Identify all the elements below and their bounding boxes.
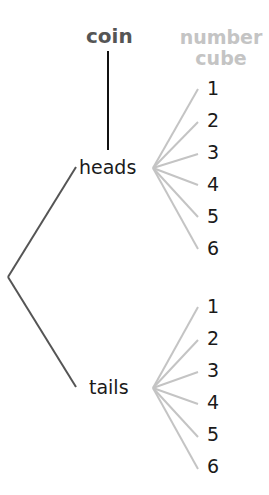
header-number-cube-line2: cube xyxy=(176,48,266,69)
heads-outcome-2: 2 xyxy=(207,111,219,130)
tails-outcome-3: 3 xyxy=(207,361,219,380)
header-number-cube-line1: number xyxy=(176,27,266,48)
header-coin: coin xyxy=(86,26,133,46)
header-number-cube: number cube xyxy=(176,27,266,69)
outcome-tails: tails xyxy=(89,378,129,397)
heads-outcome-5: 5 xyxy=(207,207,219,226)
tails-outcome-4: 4 xyxy=(207,393,219,412)
tails-fan xyxy=(153,307,198,469)
tree-diagram-lines xyxy=(0,0,269,495)
branch-root-tails xyxy=(8,277,76,387)
tails-outcome-5: 5 xyxy=(207,425,219,444)
outcome-heads: heads xyxy=(79,158,136,177)
heads-outcome-4: 4 xyxy=(207,175,219,194)
tails-outcome-2: 2 xyxy=(207,329,219,348)
heads-outcome-3: 3 xyxy=(207,143,219,162)
tails-outcome-1: 1 xyxy=(207,297,219,316)
branch-root-heads xyxy=(8,167,76,277)
heads-fan xyxy=(153,89,198,249)
tails-outcome-6: 6 xyxy=(207,457,219,476)
heads-outcome-6: 6 xyxy=(207,239,219,258)
heads-outcome-1: 1 xyxy=(207,79,219,98)
